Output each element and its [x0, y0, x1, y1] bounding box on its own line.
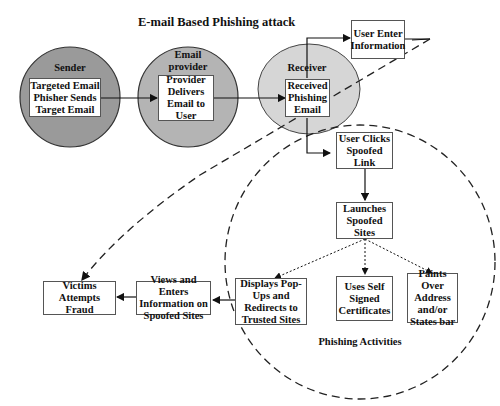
- sender-box: Targeted Email Phisher Sends Target Emai…: [29, 78, 101, 117]
- user-enter-info-box: User Enter Information: [351, 20, 405, 59]
- phishing-activities-label: Phishing Activities: [310, 336, 410, 348]
- arrow-launches-popups: [275, 239, 365, 278]
- diagram-canvas: [0, 0, 500, 406]
- victims-box: Victims Attempts Fraud: [43, 281, 116, 315]
- fraud-path-line: [405, 39, 430, 40]
- views-enters-box: Views and Enters Information on Spoofed …: [136, 281, 211, 315]
- popups-box: Displays Pop- Ups and Redirects to Trust…: [235, 278, 307, 325]
- launches-box: Launches Spoofed Sites: [336, 202, 393, 239]
- self-signed-box: Uses Self Signed Certificates: [336, 276, 393, 321]
- provider-label: Email provider: [163, 49, 213, 72]
- paints-over-box: Paints Over Address and/or States bar: [407, 273, 458, 323]
- receiver-label: Receiver: [282, 62, 332, 74]
- receiver-box: Received Phishing Email: [285, 79, 330, 117]
- user-clicks-box: User Clicks Spoofed Link: [336, 132, 393, 169]
- sender-label: Sender: [45, 62, 95, 74]
- provider-box: Provider Delivers Email to User: [158, 75, 214, 121]
- diagram-title: E-mail Based Phishing attack: [138, 15, 295, 30]
